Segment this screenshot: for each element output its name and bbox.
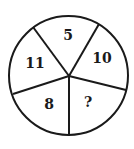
sector-upper-right-value: 10 <box>92 50 112 66</box>
sector-lower-right-value: ? <box>84 94 92 110</box>
sector-top-value: 5 <box>63 27 73 43</box>
sector-lower-left-value: 8 <box>44 96 54 112</box>
sector-upper-left-value: 11 <box>25 55 44 71</box>
number-wheel-diagram: 5 10 ? 8 11 <box>0 0 134 149</box>
spoke-lower-right <box>69 76 126 90</box>
spoke-lower-left <box>13 76 69 94</box>
